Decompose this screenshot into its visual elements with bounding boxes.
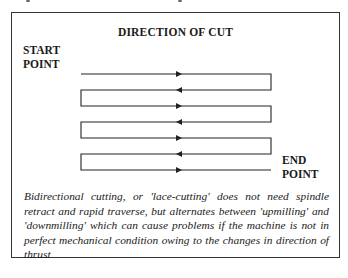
cropped-text-fragment [178,0,182,2]
figure-description: Bidirectional cutting, or 'lace-cutting'… [24,189,329,262]
direction-arrow-icons [176,71,182,173]
cropped-text-fragment [26,0,30,2]
figure-frame: DIRECTION OF CUT START POINT END POINT B… [11,12,340,258]
